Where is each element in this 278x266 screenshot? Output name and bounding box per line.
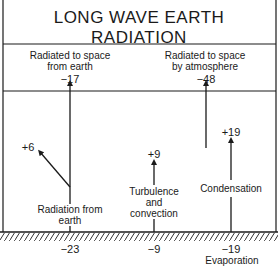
space-from-earth-value: −17 [50,73,90,85]
title-line-1: LONG WAVE EARTH [0,8,278,28]
title-line-2: RADIATION [0,28,278,48]
earth-to-atmosphere-arrow [40,152,70,187]
space-from-earth-label: Radiated to space from earth [20,50,120,72]
condensation-value: +19 [216,126,246,138]
earth-to-atmosphere-value: +6 [16,141,40,153]
evaporation-label: Evaporation [200,255,264,266]
evaporation-value: −19 [214,243,248,255]
condensation-label: Condensation [196,183,266,194]
space-by-atmosphere-value: −48 [186,73,226,85]
turbulence-convection-label: Turbulence and convection [124,186,184,219]
diagram-title: LONG WAVE EARTH RADIATION [0,8,278,47]
radiation-from-earth-label: Radiation from earth [30,204,110,226]
convection-ground-value: −9 [140,243,168,255]
ground-hatch [0,233,278,241]
radiation-from-earth-value: −23 [55,243,85,255]
space-by-atmosphere-label: Radiated to space by atmosphere [155,50,255,72]
convection-value: +9 [140,148,168,160]
